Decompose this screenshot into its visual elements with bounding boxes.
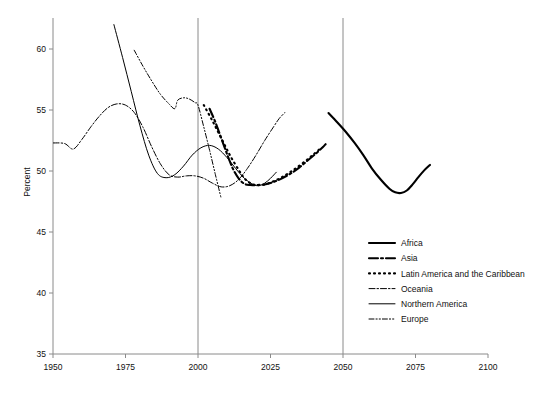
legend-label-europe[interactable]: Europe (401, 314, 429, 324)
series-line-northern-america (114, 25, 276, 186)
y-tick-label: 45 (37, 227, 47, 237)
legend: AfricaAsiaLatin America and the Caribbea… (369, 238, 525, 324)
x-tick-label: 2100 (479, 362, 498, 372)
x-tick-label: 1975 (116, 362, 135, 372)
y-tick-label: 55 (37, 105, 47, 115)
y-axis-tick-labels: 354045505560 (37, 44, 47, 359)
series-line-oceania (53, 104, 285, 187)
legend-label-oceania[interactable]: Oceania (401, 284, 433, 294)
x-tick-label: 2050 (334, 362, 353, 372)
legend-label-northern-america[interactable]: Northern America (401, 299, 467, 309)
x-tick-label: 2025 (261, 362, 280, 372)
y-tick-label: 50 (37, 166, 47, 176)
series-line-europe (134, 50, 221, 198)
series-line-africa (329, 113, 431, 193)
legend-label-asia[interactable]: Asia (401, 253, 418, 263)
legend-label-latin-america-and-the-caribbean[interactable]: Latin America and the Caribbean (401, 269, 525, 279)
legend-label-africa[interactable]: Africa (401, 238, 423, 248)
y-tick-label: 35 (37, 349, 47, 359)
y-axis-title: Percent (22, 167, 32, 197)
line-chart: 1950197520002025205020752100 35404550556… (0, 0, 556, 400)
series-line-latin-america-and-the-caribbean (204, 105, 320, 185)
x-axis-tick-labels: 1950197520002025205020752100 (44, 362, 498, 372)
data-series (53, 25, 430, 199)
x-tick-label: 2000 (189, 362, 208, 372)
y-tick-label: 40 (37, 288, 47, 298)
reference-lines (198, 18, 343, 354)
x-tick-label: 2075 (406, 362, 425, 372)
x-tick-label: 1950 (44, 362, 63, 372)
y-tick-label: 60 (37, 44, 47, 54)
series-line-asia (210, 109, 326, 185)
chart-container: 1950197520002025205020752100 35404550556… (0, 0, 556, 400)
